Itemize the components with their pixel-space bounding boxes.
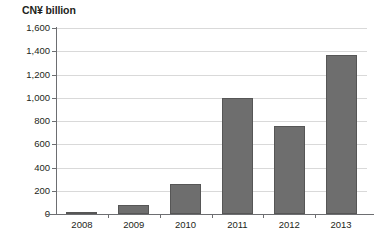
x-axis-tick-label: 2013 bbox=[315, 219, 367, 230]
gridline bbox=[56, 144, 367, 145]
y-axis-line bbox=[56, 27, 57, 215]
y-axis-tick-mark bbox=[52, 144, 56, 145]
chart-title: CN¥ billion bbox=[22, 4, 76, 16]
x-axis-tick-label: 2010 bbox=[160, 219, 212, 230]
y-axis-tick-label: 1,400 bbox=[4, 46, 50, 56]
x-axis-tick-label: 2008 bbox=[56, 219, 108, 230]
y-axis-tick-label: 1,200 bbox=[4, 70, 50, 80]
bar bbox=[118, 205, 149, 214]
x-axis-tick-mark bbox=[263, 214, 264, 218]
bar bbox=[274, 126, 305, 214]
x-axis-tick-mark bbox=[315, 214, 316, 218]
y-axis-tick-mark bbox=[52, 98, 56, 99]
gridline bbox=[56, 51, 367, 52]
x-axis-line bbox=[46, 214, 374, 215]
x-axis-tick-label: 2012 bbox=[263, 219, 315, 230]
x-axis-tick-label: 2011 bbox=[212, 219, 264, 230]
y-axis-tick-label: 800 bbox=[4, 116, 50, 126]
x-axis-tick-label: 2009 bbox=[108, 219, 160, 230]
y-axis-tick-label: 1,600 bbox=[4, 23, 50, 33]
x-axis-tick-mark bbox=[212, 214, 213, 218]
y-axis-tick-mark bbox=[52, 75, 56, 76]
y-axis-tick-mark bbox=[52, 214, 56, 215]
gridline bbox=[56, 28, 367, 29]
y-axis-tick-label: 600 bbox=[4, 139, 50, 149]
y-axis-tick-mark bbox=[52, 121, 56, 122]
y-axis-tick-mark bbox=[52, 168, 56, 169]
gridline bbox=[56, 98, 367, 99]
bar bbox=[222, 98, 253, 214]
y-axis-tick-mark bbox=[52, 191, 56, 192]
gridline bbox=[56, 121, 367, 122]
plot-area bbox=[56, 28, 367, 214]
y-axis-tick-labels: 02004006008001,0001,2001,4001,600 bbox=[0, 28, 50, 214]
y-axis-tick-mark bbox=[52, 28, 56, 29]
x-axis-tick-labels: 200820092010201120122013 bbox=[56, 219, 367, 235]
y-axis-tick-label: 400 bbox=[4, 163, 50, 173]
y-axis-tick-label: 0 bbox=[4, 209, 50, 219]
y-axis-tick-label: 1,000 bbox=[4, 93, 50, 103]
bar bbox=[170, 184, 201, 214]
bar bbox=[326, 55, 357, 214]
y-axis-tick-mark bbox=[52, 51, 56, 52]
gridline bbox=[56, 168, 367, 169]
gridline bbox=[56, 75, 367, 76]
bar-chart: CN¥ billion 02004006008001,0001,2001,400… bbox=[0, 0, 381, 250]
x-axis-tick-mark bbox=[108, 214, 109, 218]
gridline bbox=[56, 191, 367, 192]
y-axis-tick-label: 200 bbox=[4, 186, 50, 196]
x-axis-tick-mark bbox=[160, 214, 161, 218]
